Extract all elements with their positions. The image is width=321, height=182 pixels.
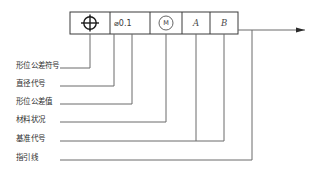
callout-label-tolerance-value: 形位公差值 bbox=[16, 98, 53, 106]
callout-label-material-condition: 材料状况 bbox=[16, 116, 45, 124]
callout-label-datum-symbol: 基准代号 bbox=[16, 135, 45, 143]
mmc-letter: M bbox=[163, 19, 169, 27]
datum-secondary-text: B bbox=[220, 18, 227, 28]
mmc-circled-m-icon: M bbox=[159, 16, 173, 30]
gdt-drawing: ⌀0.1 M A B bbox=[0, 0, 321, 182]
position-tolerance-icon bbox=[81, 15, 99, 32]
callout-label-diameter-sign: 直径代号 bbox=[16, 80, 45, 88]
diagram-canvas: ⌀0.1 M A B bbox=[0, 0, 321, 182]
callout-label-geometric-tolerance-symbol: 形位公差符号 bbox=[16, 62, 60, 70]
leader-arrow bbox=[238, 27, 305, 32]
tolerance-value-text: ⌀0.1 bbox=[114, 19, 132, 28]
callout-label-leader-line: 指引线 bbox=[16, 154, 38, 162]
datum-primary-text: A bbox=[192, 18, 199, 28]
